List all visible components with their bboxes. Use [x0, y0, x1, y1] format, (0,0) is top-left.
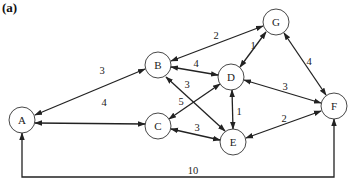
weight-D-E: 1	[236, 106, 241, 117]
weight-B-D: 4	[193, 58, 199, 69]
node-F-label: F	[331, 100, 337, 112]
edge-C-D	[169, 84, 220, 119]
weight-D-F: 3	[282, 81, 287, 92]
weight-A-B: 3	[99, 65, 104, 76]
node-G-label: G	[272, 16, 280, 28]
node-D: D	[218, 64, 244, 90]
weight-E-F: 2	[281, 113, 286, 124]
edge-A-C	[35, 123, 145, 124]
edge-weights: 3 4 2 4 3 5 3 1 1 3 4 2 10	[99, 30, 312, 176]
node-A-label: A	[18, 114, 26, 126]
node-E-label: E	[230, 136, 237, 148]
edge-D-E	[232, 90, 233, 129]
node-D-label: D	[227, 71, 235, 83]
weight-A-C: 4	[101, 97, 107, 108]
weight-D-G: 1	[250, 40, 255, 51]
node-C-label: C	[154, 120, 161, 132]
node-G: G	[263, 9, 289, 35]
weight-A-F: 10	[188, 165, 199, 176]
weight-C-D: 5	[178, 96, 183, 107]
graph-diagram: 3 4 2 4 3 5 3 1 1 3 4 2 10 A B C D E F G	[0, 0, 355, 180]
node-B: B	[145, 52, 171, 78]
node-E: E	[220, 129, 246, 155]
weight-C-E: 3	[194, 122, 199, 133]
node-C: C	[145, 113, 171, 139]
edge-G-F	[284, 33, 326, 95]
node-A: A	[9, 107, 35, 133]
weight-B-G: 2	[213, 30, 218, 41]
weight-B-E: 3	[184, 79, 189, 90]
node-B-label: B	[154, 59, 161, 71]
node-F: F	[321, 93, 347, 119]
weight-G-F: 4	[306, 56, 312, 67]
edge-A-F	[22, 119, 334, 177]
edge-A-B	[35, 69, 145, 115]
